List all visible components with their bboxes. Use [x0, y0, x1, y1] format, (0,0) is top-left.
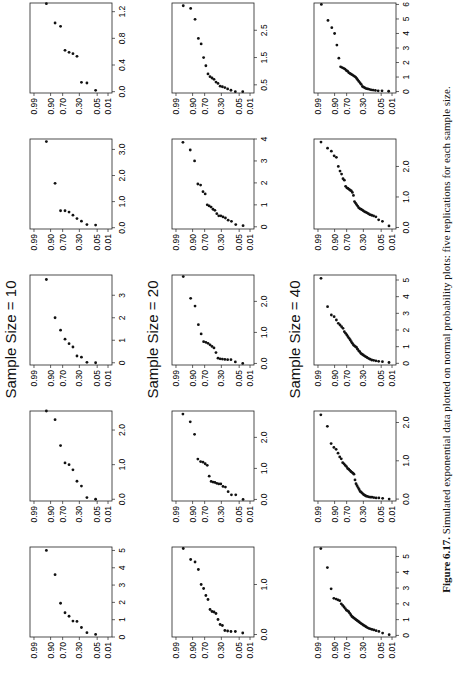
y-tick-label: 0.05: [234, 642, 244, 659]
y-tick-label: 0.70: [200, 234, 210, 251]
y-tick-label: 0.05: [92, 98, 102, 115]
data-point: [230, 630, 233, 633]
data-point: [72, 468, 75, 471]
plot-frame: [30, 3, 112, 93]
data-point: [204, 64, 207, 67]
data-point: [189, 297, 192, 300]
data-point: [182, 4, 185, 7]
data-point: [194, 18, 197, 21]
data-point: [335, 319, 338, 322]
data-point: [76, 55, 79, 58]
data-point: [327, 19, 330, 22]
data-point: [343, 330, 346, 333]
data-point: [388, 225, 391, 228]
y-tick-label: 0.90: [46, 370, 56, 387]
data-point: [340, 602, 343, 605]
data-point: [217, 357, 220, 360]
data-point: [320, 141, 323, 144]
data-point: [242, 498, 245, 501]
y-tick-label: 0.99: [29, 370, 39, 387]
y-tick-label: 0.99: [171, 234, 181, 251]
data-point: [388, 633, 391, 636]
data-point: [381, 220, 384, 223]
data-point: [377, 89, 380, 92]
data-point: [337, 452, 340, 455]
x-tick-label: 2: [401, 327, 411, 332]
data-point: [211, 610, 214, 613]
y-tick-label: 0.70: [58, 506, 68, 523]
data-point: [341, 461, 344, 464]
y-tick-label: 0.05: [92, 506, 102, 523]
plot-frame: [314, 547, 396, 637]
y-tick-label: 0.05: [376, 234, 386, 251]
x-tick-label: 5: [401, 277, 411, 282]
data-point: [80, 81, 83, 84]
y-tick-label: 0.90: [46, 98, 56, 115]
x-tick-label: 3: [117, 582, 127, 587]
probability-plot-panel: 0.010.050.300.700.900.990.01.02.03.0: [22, 130, 140, 265]
y-tick-label: 0.01: [387, 370, 397, 387]
y-tick-label: 0.70: [342, 506, 352, 523]
y-tick-label: 0.30: [358, 506, 368, 523]
x-tick-label: 2.0: [117, 424, 127, 436]
data-point: [340, 173, 343, 176]
data-point: [377, 360, 380, 363]
data-point: [355, 482, 358, 485]
data-point: [94, 224, 97, 227]
x-tick-label: 1.0: [117, 195, 127, 207]
data-point: [215, 351, 218, 354]
y-tick-label: 0.90: [188, 506, 198, 523]
data-point: [354, 479, 357, 482]
y-tick-label: 0.01: [245, 642, 255, 659]
y-tick-label: 0.01: [245, 370, 255, 387]
data-point: [76, 480, 79, 483]
x-tick-label: 0: [401, 361, 411, 366]
data-point: [320, 277, 323, 280]
data-point: [59, 25, 62, 28]
probability-plot-panel: 0.010.050.300.700.900.9901234: [164, 130, 282, 265]
probability-plot-panel: 0.010.050.300.700.900.990123456: [306, 0, 424, 129]
data-point: [72, 214, 75, 217]
y-tick-label: 0.99: [29, 506, 39, 523]
y-tick-label: 0.30: [216, 506, 226, 523]
x-tick-label: 1.0: [259, 462, 269, 474]
y-tick-label: 0.01: [387, 234, 397, 251]
y-tick-label: 0.99: [313, 234, 323, 251]
y-tick-label: 0.90: [330, 370, 340, 387]
normal-probability-plot: 0.010.050.300.700.900.990.51.52.5: [164, 0, 282, 129]
data-point: [241, 362, 244, 365]
x-tick-label: 1.2: [117, 5, 127, 17]
data-point: [200, 583, 203, 586]
x-tick-label: 0: [401, 89, 411, 94]
data-point: [80, 220, 83, 223]
y-tick-label: 0.05: [234, 506, 244, 523]
data-point: [377, 218, 380, 221]
y-tick-label: 0.30: [358, 234, 368, 251]
data-point: [199, 184, 202, 187]
data-point: [319, 547, 322, 550]
data-point: [196, 458, 199, 461]
data-point: [387, 90, 390, 93]
plot-frame: [172, 547, 254, 637]
data-point: [241, 632, 244, 635]
data-point: [353, 200, 356, 203]
data-point: [337, 322, 340, 325]
y-tick-label: 0.99: [313, 506, 323, 523]
data-point: [339, 170, 342, 173]
data-point: [80, 356, 83, 359]
data-point: [209, 608, 212, 611]
x-tick-label: 1.0: [117, 458, 127, 470]
data-point: [319, 413, 322, 416]
y-tick-label: 0.05: [92, 642, 102, 659]
data-point: [332, 446, 335, 449]
y-tick-label: 0.01: [103, 642, 113, 659]
y-tick-label: 0.05: [376, 370, 386, 387]
y-tick-label: 0.99: [171, 370, 181, 387]
data-point: [234, 223, 237, 226]
data-point: [59, 329, 62, 332]
normal-probability-plot: 0.010.050.300.700.900.990.01.02.0: [22, 402, 140, 537]
data-point: [64, 611, 67, 614]
y-tick-label: 0.70: [58, 98, 68, 115]
x-tick-label: 0: [117, 634, 127, 639]
row-title: Sample Size = 40: [286, 0, 303, 679]
